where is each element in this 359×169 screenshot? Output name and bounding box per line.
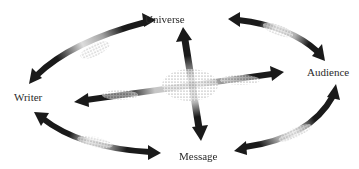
arrowhead-icon [148,145,161,160]
arrow-writer-message [34,112,161,160]
diagram-arrows [0,0,359,169]
arrowhead-icon [234,141,247,155]
arrow-audience-message [234,84,340,155]
arrowhead-icon [74,93,89,107]
arrowhead-icon [176,27,192,42]
node-label-message: Message [179,151,218,162]
arrowhead-icon [270,66,284,81]
arrow-universe-audience [228,12,325,61]
arrowhead-icon [228,12,240,27]
node-label-universe: Universe [145,14,185,25]
communication-diagram: Universe Audience Writer Message [0,0,359,169]
node-label-audience: Audience [307,67,349,78]
node-label-writer: Writer [14,92,42,103]
arrowhead-icon [192,125,208,141]
